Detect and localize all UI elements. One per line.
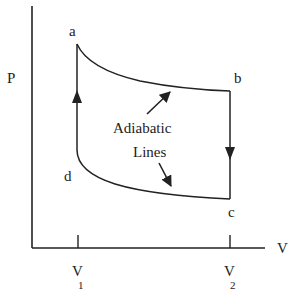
upper-pointer-arrow <box>147 92 170 114</box>
upper-adiabatic-curve <box>77 44 230 91</box>
pv-diagram: P V V 1 V 2 a b c d Adiabatic Lines <box>0 0 303 306</box>
lower-pointer-arrow <box>159 163 171 186</box>
annotation-lines: Lines <box>133 144 166 160</box>
v1-label: V <box>72 263 83 279</box>
up-arrow-icon <box>72 90 82 103</box>
point-b-label: b <box>234 70 242 86</box>
x-axis-label: V <box>277 240 288 256</box>
down-arrow-icon <box>225 147 235 160</box>
y-axis-label: P <box>7 70 15 86</box>
v2-label: V <box>224 263 235 279</box>
point-a-label: a <box>69 23 76 39</box>
v2-subscript: 2 <box>230 279 236 291</box>
point-c-label: c <box>228 204 235 220</box>
point-d-label: d <box>64 168 72 184</box>
annotation-adiabatic: Adiabatic <box>113 120 172 136</box>
diagram-svg: P V V 1 V 2 a b c d Adiabatic Lines <box>0 0 303 306</box>
v1-subscript: 1 <box>78 279 84 291</box>
